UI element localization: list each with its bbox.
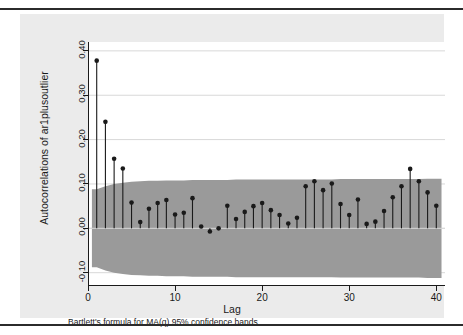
data-point-marker [216,226,221,231]
data-point-marker [94,58,99,63]
correlogram-svg [88,42,445,286]
x-tick-label-2: 20 [247,292,277,303]
x-tick-label-0: 0 [73,292,103,303]
data-point-marker [373,219,378,224]
x-tick-mark-3 [349,286,350,291]
data-point-marker [103,120,108,125]
data-point-marker [347,213,352,218]
plot-area [88,42,445,286]
data-point-marker [173,212,178,217]
data-point-marker [338,202,343,207]
x-tick-mark-0 [88,286,89,291]
top-divider-rule [0,8,463,10]
data-point-marker [251,204,256,209]
x-tick-label-1: 10 [160,292,190,303]
data-point-marker [382,209,387,214]
y-axis-title: Autocorrelations of ar1plusoutlier [38,3,50,293]
data-point-marker [303,184,308,189]
y-tick-label-5: 0.40 [76,32,87,66]
data-point-marker [112,156,117,161]
x-tick-mark-2 [262,286,263,291]
x-tick-mark-1 [175,286,176,291]
data-point-marker [208,229,213,234]
data-point-marker [321,188,326,193]
x-tick-label-4: 40 [421,292,451,303]
data-point-marker [147,207,152,212]
data-point-marker [199,224,204,229]
y-tick-label-4: 0.30 [76,77,87,111]
data-point-marker [260,201,265,206]
data-point-marker [138,220,143,225]
data-point-marker [312,179,317,184]
data-point-marker [277,213,282,218]
data-point-marker [242,210,247,215]
data-point-marker [181,211,186,216]
data-point-marker [364,222,369,227]
x-tick-label-3: 30 [334,292,364,303]
data-point-marker [121,166,126,171]
correlogram-page: Autocorrelations of ar1plusoutlier -0.10… [0,0,463,335]
data-point-marker [425,190,430,195]
data-point-marker [129,200,134,205]
data-point-marker [164,198,169,203]
data-point-marker [408,167,413,172]
y-tick-label-3: 0.20 [76,121,87,155]
data-point-marker [286,221,291,226]
data-point-marker [269,208,274,213]
data-point-marker [399,184,404,189]
data-point-marker [225,203,230,208]
data-point-marker [417,179,422,184]
data-point-marker [295,215,300,220]
y-tick-label-1: 0.00 [76,210,87,244]
data-point-marker [155,201,160,206]
y-tick-label-2: 0.10 [76,165,87,199]
y-tick-label-0: -0.10 [76,254,87,288]
bottom-divider-rule [0,324,463,326]
data-point-marker [234,217,239,222]
x-tick-mark-4 [436,286,437,291]
data-point-marker [390,195,395,200]
x-axis-title: Lag [20,303,444,315]
data-point-marker [330,181,335,186]
chart-figure: Autocorrelations of ar1plusoutlier -0.10… [20,14,444,318]
data-point-marker [190,196,195,201]
data-point-marker [434,203,439,208]
data-point-marker [356,197,361,202]
